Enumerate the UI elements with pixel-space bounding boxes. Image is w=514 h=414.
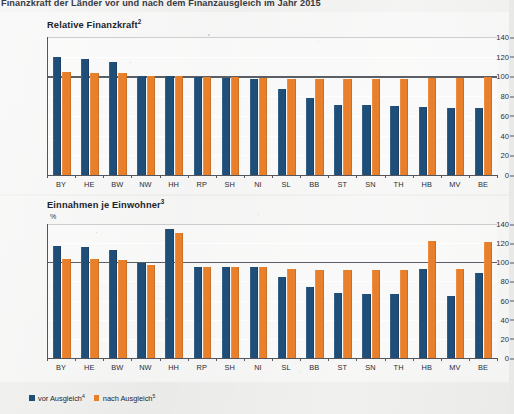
bar-NW-nach <box>147 76 155 175</box>
bar-group <box>217 37 245 175</box>
scan-speckle <box>166 318 168 320</box>
bar-SH-nach <box>231 77 239 175</box>
chart-title-relative-finanzkraft: Relative Finanzkraft2 <box>47 20 142 30</box>
x-axis-label-TH: TH <box>394 180 404 189</box>
bar-HH-vor <box>165 229 173 358</box>
bar-HE-nach <box>90 259 98 358</box>
x-axis-label-ST: ST <box>337 363 347 372</box>
bar-RP-vor <box>194 267 202 358</box>
legend-swatch-nach-ausgleich <box>94 395 100 401</box>
bar-NW-vor <box>137 263 145 358</box>
y-axis-tick-label: 100 <box>467 258 509 267</box>
bar-group <box>329 224 357 358</box>
bar-RP-nach <box>203 77 211 175</box>
x-axis-label-MV: MV <box>449 180 460 189</box>
bar-BW-vor <box>109 62 117 175</box>
bar-group <box>357 224 385 358</box>
bar-SH-vor <box>222 267 230 358</box>
chart-title-einnahmen-je-einwohner: Einnahmen je Einwohner3 <box>47 200 165 210</box>
bar-group <box>442 224 470 358</box>
bar-group <box>76 224 104 358</box>
x-axis-label-NI: NI <box>254 180 262 189</box>
bar-BB-nach <box>315 79 323 175</box>
bar-BB-vor <box>306 98 314 175</box>
y-axis-tick-label: 140 <box>467 33 509 42</box>
bar-group <box>48 37 76 175</box>
bar-group <box>386 224 414 358</box>
bar-group <box>329 37 357 175</box>
x-axis-label-MV: MV <box>449 363 460 372</box>
x-axis-label-SH: SH <box>225 180 235 189</box>
plot-area-relative-finanzkraft <box>47 37 497 175</box>
bar-SN-vor <box>362 294 370 358</box>
bar-NI-nach <box>259 267 267 358</box>
chart-legend: vor Ausgleich4nach Ausgleich5 <box>0 392 509 404</box>
legend-label-vor-ausgleich: vor Ausgleich4 <box>38 394 85 403</box>
bar-RP-vor <box>194 77 202 175</box>
x-axis-label-HE: HE <box>84 180 94 189</box>
bar-SH-vor <box>222 78 230 175</box>
chart-relative-finanzkraft: Relative Finanzkraft2020406080100120140B… <box>0 20 509 196</box>
y-axis-tick-label: 140 <box>467 220 509 229</box>
x-axis-label-BY: BY <box>56 180 66 189</box>
bar-group <box>161 37 189 175</box>
bar-group <box>357 37 385 175</box>
bar-group <box>132 37 160 175</box>
bar-NW-nach <box>147 265 155 358</box>
x-axis-line <box>47 358 497 359</box>
bar-group <box>442 37 470 175</box>
bar-HH-nach <box>175 76 183 175</box>
legend-item-nach-ausgleich: nach Ausgleich5 <box>94 394 156 403</box>
bar-group <box>301 224 329 358</box>
x-axis-label-ST: ST <box>337 180 347 189</box>
x-axis-tick <box>497 175 498 178</box>
legend-item-vor-ausgleich: vor Ausgleich4 <box>29 394 85 403</box>
bar-group <box>217 224 245 358</box>
bar-SH-nach <box>231 267 239 358</box>
bar-HB-nach <box>428 78 436 175</box>
bar-MV-vor <box>447 296 455 358</box>
bar-BY-nach <box>62 259 70 358</box>
chart-einnahmen-je-einwohner: Einnahmen je Einwohner3%0204060801001201… <box>0 200 509 380</box>
y-axis-tick-label: 120 <box>467 239 509 248</box>
x-axis-label-HH: HH <box>168 180 179 189</box>
bar-group <box>104 224 132 358</box>
x-axis-label-SN: SN <box>365 363 375 372</box>
bar-BW-nach <box>118 260 126 358</box>
bar-BW-nach <box>118 73 126 175</box>
x-axis-label-HH: HH <box>168 363 179 372</box>
bar-SL-vor <box>278 277 286 358</box>
plot-area-einnahmen-je-einwohner <box>47 224 497 358</box>
bar-BB-nach <box>315 270 323 358</box>
bar-group <box>189 224 217 358</box>
bar-group <box>245 224 273 358</box>
x-axis-label-BE: BE <box>478 363 488 372</box>
bar-SL-nach <box>287 269 295 358</box>
bar-TH-vor <box>390 294 398 358</box>
scan-speckle <box>208 34 210 36</box>
bar-NW-vor <box>137 76 145 175</box>
bar-MV-nach <box>456 269 464 358</box>
bar-MV-nach <box>456 78 464 175</box>
bar-HH-vor <box>165 76 173 175</box>
bar-BY-vor <box>53 246 61 358</box>
y-axis-tick-label: 40 <box>467 315 509 324</box>
x-axis-label-BB: BB <box>309 180 319 189</box>
x-axis-label-HB: HB <box>421 363 431 372</box>
bar-SN-nach <box>372 270 380 358</box>
bar-group <box>414 37 442 175</box>
y-axis-tick-label: 20 <box>467 334 509 343</box>
bar-group <box>76 37 104 175</box>
legend-label-nach-ausgleich: nach Ausgleich5 <box>103 394 156 403</box>
bar-group <box>245 37 273 175</box>
x-axis-label-SH: SH <box>225 363 235 372</box>
bar-group <box>301 37 329 175</box>
chart-title-text: Einnahmen je Einwohner <box>47 200 161 210</box>
bar-group-container <box>48 37 497 175</box>
legend-swatch-vor-ausgleich <box>29 395 35 401</box>
x-axis-label-SL: SL <box>281 363 290 372</box>
y-axis-tick-label: 80 <box>467 92 509 101</box>
bar-BB-vor <box>306 287 314 358</box>
x-axis-label-RP: RP <box>196 363 206 372</box>
bar-group <box>386 37 414 175</box>
